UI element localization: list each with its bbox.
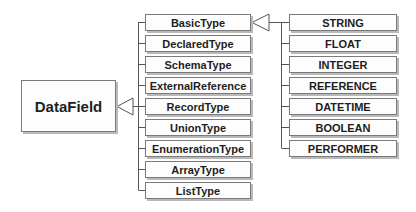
class-listtype: ListType xyxy=(145,182,251,199)
class-label: PERFORMER xyxy=(308,143,378,155)
generalization-arrow-datafield xyxy=(117,98,133,115)
class-uniontype: UnionType xyxy=(145,119,251,136)
class-performer: PERFORMER xyxy=(289,140,397,157)
class-label: BasicType xyxy=(171,17,225,29)
class-label: SchemaType xyxy=(164,59,231,71)
class-label: ExternalReference xyxy=(150,80,247,92)
class-datafield: DataField xyxy=(21,80,116,132)
class-label: DataField xyxy=(35,98,103,115)
class-datetime: DATETIME xyxy=(289,98,397,115)
class-label: DATETIME xyxy=(315,101,370,113)
class-label: DeclaredType xyxy=(162,38,233,50)
class-recordtype: RecordType xyxy=(145,98,251,115)
generalization-arrow-basictype xyxy=(252,14,269,31)
class-label: BOOLEAN xyxy=(316,122,371,134)
class-string: STRING xyxy=(289,14,397,31)
class-label: EnumerationType xyxy=(152,143,244,155)
class-label: ArrayType xyxy=(171,164,225,176)
class-float: FLOAT xyxy=(289,35,397,52)
class-reference: REFERENCE xyxy=(289,77,397,94)
class-label: FLOAT xyxy=(325,38,361,50)
class-label: STRING xyxy=(322,17,364,29)
class-label: ListType xyxy=(176,185,220,197)
class-label: REFERENCE xyxy=(309,80,377,92)
class-declaredtype: DeclaredType xyxy=(145,35,251,52)
class-externalreference: ExternalReference xyxy=(145,77,251,94)
class-enumerationtype: EnumerationType xyxy=(145,140,251,157)
class-basictype: BasicType xyxy=(145,14,251,31)
class-diagram: DataField BasicType DeclaredType SchemaT… xyxy=(0,0,416,212)
class-integer: INTEGER xyxy=(289,56,397,73)
class-label: RecordType xyxy=(167,101,230,113)
class-schematype: SchemaType xyxy=(145,56,251,73)
class-arraytype: ArrayType xyxy=(145,161,251,178)
class-boolean: BOOLEAN xyxy=(289,119,397,136)
class-label: UnionType xyxy=(170,122,226,134)
class-label: INTEGER xyxy=(319,59,368,71)
